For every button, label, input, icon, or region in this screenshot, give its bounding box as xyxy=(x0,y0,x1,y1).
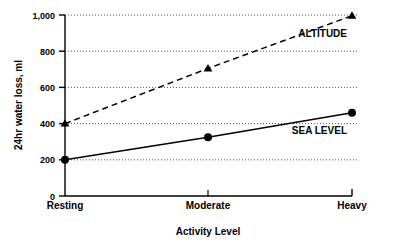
marker-sea-level-resting xyxy=(61,156,69,164)
series-label-altitude: ALTITUDE xyxy=(298,28,347,39)
marker-sea-level-moderate xyxy=(204,133,212,141)
xtick-label-moderate: Moderate xyxy=(186,200,231,211)
series-label-sea-level: SEA LEVEL xyxy=(292,125,347,136)
ytick-label-600: 600 xyxy=(40,83,55,93)
y-axis-title: 24hr water loss, ml xyxy=(13,60,24,150)
xtick-label-resting: Resting xyxy=(47,200,84,211)
chart-container: 1,000 800 600 400 200 0 24hr water loss,… xyxy=(0,0,395,249)
line-chart: 1,000 800 600 400 200 0 24hr water loss,… xyxy=(0,0,395,249)
ytick-label-400: 400 xyxy=(40,119,55,129)
ytick-label-200: 200 xyxy=(40,155,55,165)
ytick-label-800: 800 xyxy=(40,47,55,57)
marker-sea-level-heavy xyxy=(348,109,356,117)
xtick-label-heavy: Heavy xyxy=(337,200,367,211)
x-axis-title: Activity Level xyxy=(176,226,241,237)
ytick-label-1000: 1,000 xyxy=(32,11,55,21)
